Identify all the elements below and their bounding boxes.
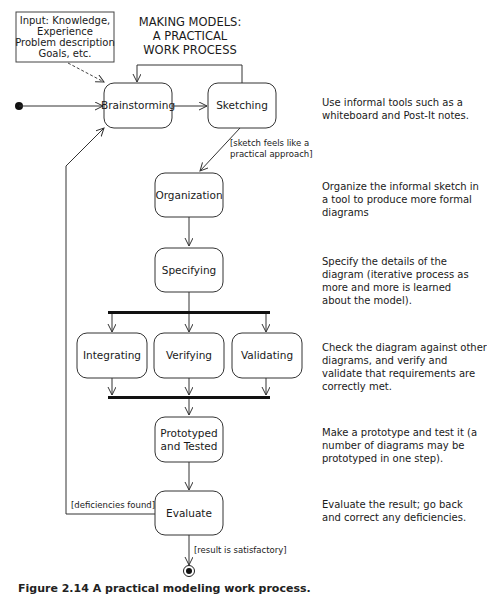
description-brainstorm: Use informal tools such as a whiteboard … [322,96,482,122]
node-label: Validating [241,349,293,361]
node-label: Specifying [162,264,216,276]
node-integrating: Integrating [77,333,147,378]
description-organize: Organize the informal sketch in a tool t… [322,180,482,219]
join-bar [108,396,270,399]
guard-satisfactory: [result is satisfactory] [194,545,287,555]
input-note: Input: Knowledge, Experience Problem des… [15,12,115,62]
title-line: A PRACTICAL [153,29,228,43]
note-dependency-arrow [68,63,104,82]
node-verifying: Verifying [154,333,224,378]
node-evaluate: Evaluate [155,491,223,535]
arrow-sketch-back-to-brainstorm [137,65,242,83]
node-label: and Tested [161,440,218,452]
node-label: Evaluate [166,507,212,519]
final-node [184,566,195,577]
arrow-evaluate-back-to-brainstorm [66,128,155,514]
description-evaluate: Evaluate the result; go back and correct… [322,498,482,524]
node-label: Sketching [216,99,268,111]
title-line: WORK PROCESS [143,43,236,57]
node-label: Prototyped [160,427,217,439]
guard-deficiencies: [deficiencies found] [71,500,155,510]
diagram-title: MAKING MODELS: A PRACTICAL WORK PROCESS [139,15,242,57]
note-line: Goals, etc. [38,48,91,59]
description-check: Check the diagram against other diagrams… [322,341,487,393]
description-specify: Specify the details of the diagram (iter… [322,255,482,307]
node-label: Brainstorming [101,99,175,111]
note-line: Input: Knowledge, [20,15,111,26]
node-specifying: Specifying [155,248,223,292]
node-validating: Validating [232,333,302,378]
fork-bar [108,311,270,314]
node-brainstorming: Brainstorming [101,83,175,128]
guard-sketch-ok: [sketch feels like a [230,138,309,148]
node-label: Verifying [166,349,212,361]
node-label: Integrating [83,349,141,361]
node-organization: Organization [155,173,223,217]
guard-sketch-ok: practical approach] [230,149,313,159]
note-line: Problem description [15,37,115,48]
node-sketching: Sketching [208,83,276,128]
node-prototyped-and-tested: Prototyped and Tested [155,417,223,462]
node-label: Organization [155,189,222,201]
description-prototype: Make a prototype and test it (a number o… [322,426,482,465]
figure-caption: Figure 2.14 A practical modeling work pr… [18,582,311,595]
title-line: MAKING MODELS: [139,15,242,29]
note-line: Experience [37,26,93,37]
